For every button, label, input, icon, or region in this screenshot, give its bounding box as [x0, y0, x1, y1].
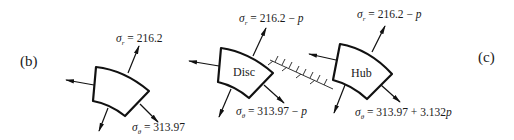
- interface-hatch: [268, 56, 333, 89]
- panel-label-c: (c): [478, 50, 495, 65]
- interface-line: [270, 60, 333, 89]
- hub-radial-arrow-outer: [372, 26, 385, 52]
- disc-hoop-arrow-left: [189, 61, 219, 66]
- disc-radial-arrow-outer: [253, 28, 266, 56]
- element-b-group: [66, 46, 158, 131]
- value: = 216.2 −: [365, 8, 415, 20]
- hub-hoop-arrow-left: [309, 54, 336, 60]
- radial-arrow-outer: [128, 46, 139, 73]
- hub-sigma-theta-label: σθ = 313.97 + 3.132p: [355, 107, 452, 121]
- disc-radial-arrow-inner: [219, 89, 231, 117]
- hub-radial-arrow-inner: [334, 85, 345, 113]
- radial-arrow-inner: [99, 108, 108, 131]
- value: = 216.2: [124, 32, 162, 44]
- element-b-sigma-theta-label: σθ = 313.97: [132, 122, 185, 136]
- value: = 313.97 −: [245, 105, 301, 117]
- disc-hoop-arrow-right: [264, 85, 284, 103]
- variable-p: p: [416, 8, 422, 20]
- hoop-arrow-left: [66, 80, 94, 85]
- hub-hoop-arrow-right: [381, 85, 400, 102]
- element-b-sigma-r-label: σr = 216.2: [116, 33, 163, 47]
- value: = 216.2 −: [247, 12, 297, 24]
- hub-sigma-r-label: σr = 216.2 − p: [357, 9, 422, 23]
- hoop-arrow-right: [140, 104, 158, 122]
- variable-p: p: [446, 106, 452, 118]
- variable-p: p: [301, 105, 307, 117]
- disc-label: Disc: [233, 66, 255, 78]
- panel-label-b: (b): [20, 54, 38, 69]
- element-b-shape: [93, 67, 149, 116]
- value: = 313.97 + 3.132: [364, 106, 446, 118]
- hub-label: Hub: [351, 67, 372, 79]
- disc-sigma-r-label: σr = 216.2 − p: [239, 13, 304, 27]
- variable-p: p: [298, 12, 304, 24]
- disc-sigma-theta-label: σθ = 313.97 − p: [236, 106, 307, 120]
- value: = 313.97: [141, 121, 185, 133]
